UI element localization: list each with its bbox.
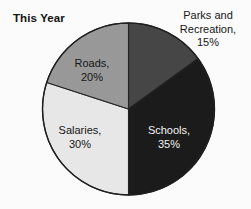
pie-chart-page: This Year Parks and Recreation, 15% Road… — [0, 0, 251, 209]
pie-label-roads-line2: 20% — [81, 71, 103, 83]
pie-label-salaries: Salaries, 30% — [44, 124, 116, 151]
pie-label-parks-line2: Recreation, — [180, 23, 236, 35]
pie-label-schools-line2: 35% — [158, 138, 180, 150]
pie-label-parks-line1: Parks and — [183, 9, 233, 21]
page-title: This Year — [13, 12, 65, 24]
pie-label-salaries-line1: Salaries, — [59, 124, 102, 136]
pie-label-roads: Roads, 20% — [62, 57, 122, 84]
pie-label-parks-and-recreation: Parks and Recreation, 15% — [168, 9, 248, 50]
pie-label-schools-line1: Schools, — [148, 124, 190, 136]
pie-label-roads-line1: Roads, — [75, 57, 110, 69]
pie-label-parks-line3: 15% — [197, 36, 219, 48]
pie-label-schools: Schools, 35% — [134, 124, 204, 151]
pie-label-salaries-line2: 30% — [69, 138, 91, 150]
